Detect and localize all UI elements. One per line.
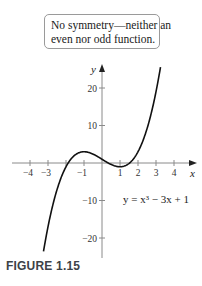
y-tick-label: −10 bbox=[82, 196, 97, 206]
y-axis-label: y bbox=[90, 63, 96, 75]
y-axis-arrow-icon bbox=[99, 64, 105, 72]
x-axis-label: x bbox=[189, 167, 195, 179]
y-tick-label: 10 bbox=[88, 121, 98, 131]
x-tick-label: −4 bbox=[23, 168, 33, 178]
equation-label: y = x³ − 3x + 1 bbox=[123, 193, 189, 205]
function-plot: x y −4−3−11234 2010−10−20 y = x³ − 3x + … bbox=[0, 0, 202, 286]
x-axis-arrow-icon bbox=[189, 160, 197, 166]
x-tick-label: 2 bbox=[136, 168, 141, 178]
x-tick-label: −3 bbox=[41, 168, 51, 178]
x-tick-label: 1 bbox=[118, 168, 123, 178]
x-tick-label: 3 bbox=[154, 168, 159, 178]
y-tick-label: 20 bbox=[88, 84, 98, 94]
y-tick-label: −20 bbox=[82, 234, 97, 244]
x-tick-label: 4 bbox=[172, 168, 177, 178]
figure-caption: FIGURE 1.15 bbox=[6, 259, 80, 273]
x-tick-label: −1 bbox=[77, 168, 87, 178]
